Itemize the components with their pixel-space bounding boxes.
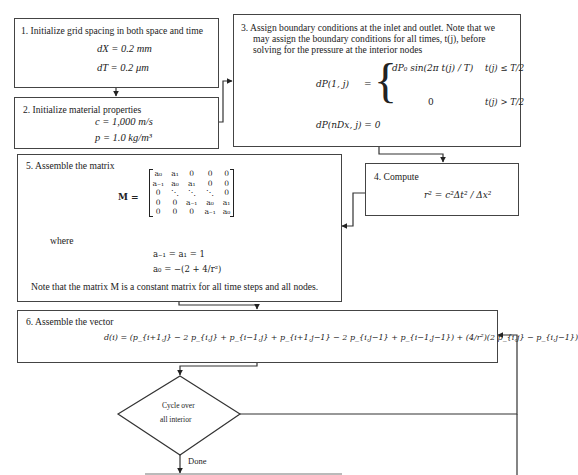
step-6-eq: d(i) = (p_{i+1,j} − 2 p_{i,j} + p_{i−1,j… [104, 333, 578, 342]
step-4-title: 4. Compute [374, 171, 419, 182]
definition-a-neg1: a₋₁ = a₁ = 1 [153, 249, 205, 259]
step-1-title: 1. Initialize grid spacing in both space… [21, 25, 203, 36]
done-label: Done [188, 456, 206, 467]
step-1-eq-dx: dX = 0.2 mm [97, 43, 152, 54]
decision-label-line-1: Cycle over [162, 400, 195, 411]
step-1-box: 1. Initialize grid spacing in both space… [14, 18, 219, 88]
step-6-box: 6. Assemble the vector d(i) = (p_{i+1,j}… [17, 310, 498, 363]
step-3-title-line-2: may assign the boundary conditions for a… [253, 33, 486, 44]
step-1-eq-dt: dT = 0.2 μm [97, 62, 149, 73]
matrix-label: M = [118, 192, 139, 202]
matrix-cell: 0 [167, 198, 182, 208]
matrix-cell: ⋱ [201, 188, 219, 198]
step-5-note: Note that the matrix M is a constant mat… [31, 281, 318, 292]
step-3-lhs: dP(1, j) [316, 79, 349, 89]
matrix-cell: 0 [201, 179, 219, 189]
step-3-case-2-cond: t(j) > T/2 [485, 97, 524, 107]
step-2-eq-c: c = 1,000 m/s [95, 116, 153, 127]
matrix-cell: a₀ [167, 179, 182, 189]
step-2-eq-p: p = 1.0 kg/m³ [95, 132, 152, 143]
step-5-title: 5. Assemble the matrix [26, 160, 114, 171]
step-3-outlet-eq: dP(nDx, j) = 0 [316, 120, 380, 130]
step-3-case-1-expr: dP₀ sin(2π t(j) / T) [392, 63, 473, 73]
decision-label-line-2: all interior [160, 414, 191, 425]
step-3-box: 3. Assign boundary conditions at the inl… [233, 14, 521, 147]
step-3-case-1-cond: t(j) ≤ T/2 [485, 63, 524, 73]
step-2-box: 2. Initialize material properties c = 1,… [14, 97, 219, 149]
matrix-m: a₀a₁000 a₋₁a₀a₁00 0⋱⋱⋱0 00a₋₁a₀a₁ 000a₋₁… [149, 169, 234, 217]
matrix-cell: a₋₁ [182, 198, 200, 208]
matrix-cell: ⋱ [167, 188, 182, 198]
matrix-cell: 0 [182, 207, 200, 217]
step-3-title-line-1: 3. Assign boundary conditions at the inl… [241, 22, 495, 33]
step-5-box: 5. Assemble the matrix M = a₀a₁000 a₋₁a₀… [17, 154, 342, 302]
matrix-cell: a₋₁ [201, 207, 219, 217]
step-3-equals: = [364, 79, 372, 89]
step-4-box: 4. Compute r² = c²Δt² / Δx² [365, 163, 519, 216]
step-3-case-2-expr: 0 [428, 97, 434, 107]
where-label: where [50, 235, 73, 246]
matrix-cell: 0 [201, 169, 219, 179]
step-6-title: 6. Assemble the vector [26, 316, 113, 327]
matrix-cell: ⋱ [182, 188, 200, 198]
step-2-title: 2. Initialize material properties [23, 104, 141, 115]
definition-a0: a₀ = −(2 + 4/r²) [153, 264, 221, 274]
matrix-cell: a₀ [201, 198, 219, 208]
matrix-cell: 0 [182, 169, 200, 179]
step-4-eq: r² = c²Δt² / Δx² [424, 190, 491, 200]
step-3-brace: { [374, 53, 397, 109]
matrix-cell: a₁ [167, 169, 182, 179]
matrix-cell: 0 [167, 207, 182, 217]
matrix-cell: a₁ [182, 179, 200, 189]
